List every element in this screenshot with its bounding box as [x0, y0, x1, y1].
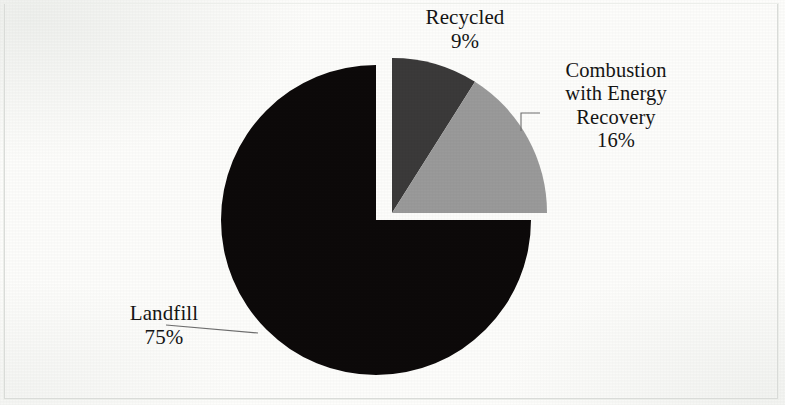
pie-label-combustion-value: 16% — [528, 129, 704, 152]
pie-label-recycled-name: Recycled — [389, 6, 541, 30]
pie-label-combustion-name-line1: Combustion — [528, 59, 704, 82]
pie-label-combustion: Combustion with Energy Recovery 16% — [528, 59, 704, 152]
pie-chart-figure: Recycled 9% Combustion with Energy Recov… — [0, 0, 785, 405]
pie-label-landfill-value: 75% — [92, 326, 236, 350]
pie-label-recycled-value: 9% — [389, 30, 541, 54]
pie-label-combustion-name-line3: Recovery — [528, 106, 704, 129]
exploded-wedge-group — [392, 58, 547, 213]
pie-label-recycled: Recycled 9% — [389, 6, 541, 54]
pie-label-landfill: Landfill 75% — [92, 302, 236, 350]
pie-label-combustion-name-line2: with Energy — [528, 82, 704, 105]
pie-label-landfill-name: Landfill — [92, 302, 236, 326]
